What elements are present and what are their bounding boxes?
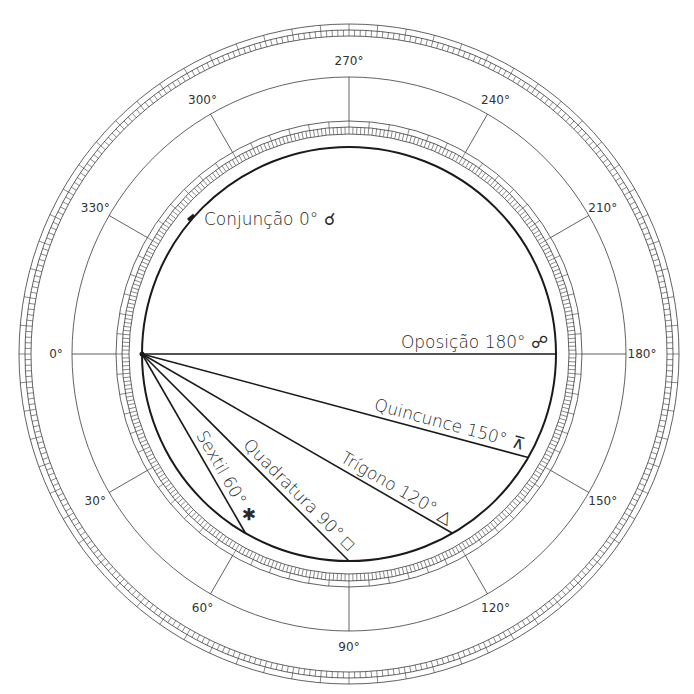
aspect-chords <box>140 215 557 561</box>
degree-label-210: 210° <box>588 201 617 215</box>
degree-label-120: 120° <box>481 601 510 615</box>
degree-label-150: 150° <box>588 494 617 508</box>
degree-label-330: 330° <box>81 201 110 215</box>
degree-label-60: 60° <box>192 601 213 615</box>
spoke-60 <box>211 556 233 594</box>
spoke-150 <box>551 471 589 493</box>
aspect-label-conjunção: Conjunção 0° ☌ <box>204 209 335 229</box>
aspect-label-oposição: Oposição 180° ☍ <box>401 332 548 352</box>
aspect-label-quincunce: Quincunce 150° ⊼ <box>372 394 526 453</box>
spoke-240 <box>466 114 488 152</box>
spoke-330 <box>109 216 147 238</box>
aspect-label-quadratura: Quadratura 90° □ <box>240 435 359 554</box>
spoke-120 <box>466 556 488 594</box>
spoke-30 <box>109 471 147 493</box>
degree-label-180: 180° <box>628 347 657 361</box>
chord-quadratura <box>142 354 349 561</box>
degree-label-270: 270° <box>335 54 364 68</box>
aspect-label-trígono: Trígono 120° △ <box>337 447 457 528</box>
degree-label-0: 0° <box>49 347 63 361</box>
degree-label-240: 240° <box>481 93 510 107</box>
spoke-210 <box>551 216 589 238</box>
chord-sextil <box>142 354 246 533</box>
degree-label-300: 300° <box>188 93 217 107</box>
degree-label-90: 90° <box>338 640 359 654</box>
spoke-300 <box>211 114 233 152</box>
aspect-wheel-diagram: 0°30°60°90°120°150°180°210°240°270°300°3… <box>0 0 694 694</box>
degree-label-30: 30° <box>85 494 106 508</box>
